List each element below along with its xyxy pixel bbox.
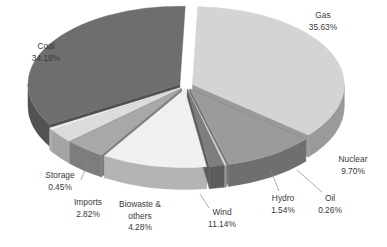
pie-chart-canvas: Gas35.63%Nuclear9.70%Oil0.26%Hydro1.54%W… [0,0,387,247]
slice-label-gas: Gas35.63% [309,10,338,32]
leader-line-oil [297,170,322,192]
slice-label-imports: Imports2.82% [74,197,102,219]
pie-slices-group [28,6,344,189]
slice-label-hydro: Hydro1.54% [271,193,295,215]
slice-label-biowaste-others: Biowaste &others4.28% [119,199,161,232]
slice-label-storage: Storage0.45% [45,170,75,192]
slice-label-wind: Wind11.14% [208,207,236,229]
slice-label-oil: Oil0.26% [318,193,342,215]
pie-chart: Gas35.63%Nuclear9.70%Oil0.26%Hydro1.54%W… [0,0,387,247]
slice-label-nuclear: Nuclear9.70% [339,154,368,176]
leader-line-wind [200,194,209,208]
